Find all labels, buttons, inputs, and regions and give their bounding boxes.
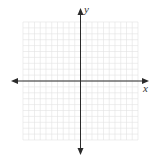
y-axis-label: y: [83, 3, 89, 15]
x-axis-label: x: [142, 82, 148, 94]
coordinate-plane: x y: [0, 0, 152, 164]
